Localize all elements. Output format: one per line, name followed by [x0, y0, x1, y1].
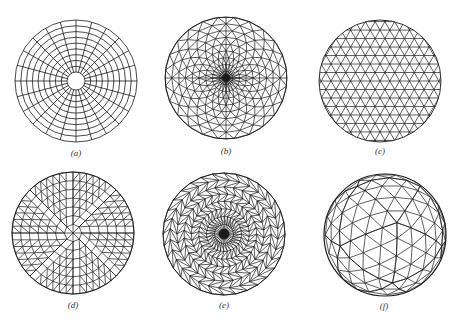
panel-label-f: (f) — [380, 301, 389, 311]
mesh-figure: (a) (b) (c) (d) (e) (f) — [0, 0, 461, 326]
geodesic-sphere-mesh — [0, 0, 461, 326]
